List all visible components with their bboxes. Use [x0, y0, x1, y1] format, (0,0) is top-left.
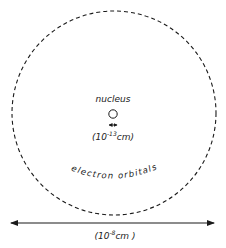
atom-size-label: (10-8cm ) [94, 229, 135, 241]
electron-orbital-boundary [12, 11, 216, 215]
atom-diagram: nucleus (10-13cm) electron orbitals (10-… [0, 0, 226, 248]
nucleus-size-label: (10-13cm) [92, 130, 134, 142]
nucleus-label: nucleus [96, 94, 131, 104]
nucleus-circle [109, 110, 117, 118]
electron-orbitals-label: electron orbitals [70, 161, 159, 180]
